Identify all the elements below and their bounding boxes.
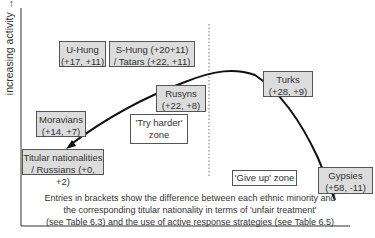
zone-give-up: 'Give up' zone [232, 170, 297, 186]
box-value: (+17, +11) [60, 56, 105, 68]
caption-line: the corresponding titular nationality in… [30, 204, 350, 216]
box-label: Gypsies [319, 170, 372, 182]
caption: Entries in brackets show the difference … [30, 192, 350, 228]
caption-line: (see Table 6.3) and the use of active re… [30, 216, 350, 228]
box-value: / Tatars (+22, +11) [110, 56, 194, 68]
box-label: S-Hung (+20+11) [110, 44, 194, 56]
y-axis-label: increasing activity → [3, 0, 17, 97]
zone-label: 'Try harder' [131, 117, 187, 129]
box-label: Turks [264, 74, 312, 86]
box-value: (+22, +8) [157, 100, 205, 112]
zone-label: zone [131, 129, 187, 141]
zone-label: 'Give up' zone [233, 172, 296, 184]
box-s-hung-tatars: S-Hung (+20+11) / Tatars (+22, +11) [109, 41, 195, 67]
caption-line: Entries in brackets show the difference … [30, 192, 350, 204]
box-label: Titular nationalities [23, 152, 103, 164]
box-value: / Russians (+0, +2) [23, 164, 103, 188]
box-label: Rusyns [157, 88, 205, 100]
box-value: (+14, +7) [37, 126, 85, 138]
box-label: Moravians [37, 114, 85, 126]
box-rusyns: Rusyns (+22, +8) [156, 85, 206, 112]
box-gypsies: Gypsies (+58, -11) [318, 167, 373, 194]
box-turks: Turks (+28, +9) [263, 71, 313, 97]
zone-try-harder: 'Try harder' zone [130, 114, 188, 144]
box-label: U-Hung [60, 44, 105, 56]
box-moravians: Moravians (+14, +7) [36, 111, 86, 137]
box-u-hung: U-Hung (+17, +11) [59, 41, 106, 67]
box-titular-russians: Titular nationalities / Russians (+0, +2… [22, 149, 104, 175]
box-value: (+28, +9) [264, 86, 312, 98]
